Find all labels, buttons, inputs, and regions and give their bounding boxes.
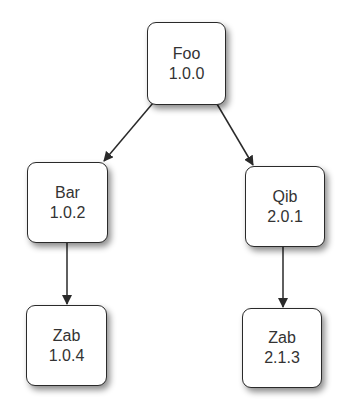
node-foo: Foo 1.0.0 <box>147 22 226 105</box>
node-name: Bar <box>55 183 80 203</box>
node-version: 2.0.1 <box>267 207 303 227</box>
edge-foo-to-qib <box>217 104 253 165</box>
node-zab-213: Zab 2.1.3 <box>242 308 322 388</box>
node-name: Zab <box>268 328 296 348</box>
node-bar: Bar 1.0.2 <box>27 162 108 243</box>
node-version: 1.0.4 <box>49 346 85 366</box>
node-version: 2.1.3 <box>264 348 300 368</box>
node-qib: Qib 2.0.1 <box>245 166 325 247</box>
edge-foo-to-bar <box>104 103 153 161</box>
node-version: 1.0.0 <box>169 64 205 84</box>
node-name: Foo <box>173 44 201 64</box>
node-name: Zab <box>53 326 81 346</box>
node-zab-104: Zab 1.0.4 <box>26 305 107 386</box>
node-name: Qib <box>273 187 298 207</box>
node-version: 1.0.2 <box>50 203 86 223</box>
